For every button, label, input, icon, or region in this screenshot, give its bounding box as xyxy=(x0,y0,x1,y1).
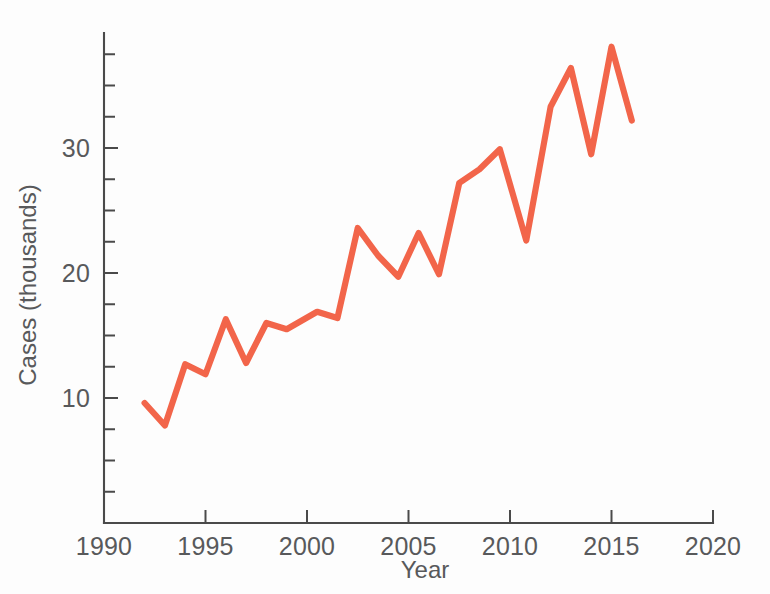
data-line-cases xyxy=(145,47,632,426)
y-axis-title: Cases (thousands) xyxy=(14,184,41,385)
x-tick-label: 1995 xyxy=(177,532,233,560)
y-axis: 102030 xyxy=(62,33,118,523)
data-series-group xyxy=(145,47,632,426)
y-tick-label: 20 xyxy=(62,259,90,287)
y-tick-label: 10 xyxy=(62,384,90,412)
x-tick-label: 2010 xyxy=(482,532,538,560)
x-tick-label: 2015 xyxy=(583,532,639,560)
x-tick-label: 1990 xyxy=(76,532,132,560)
x-tick-label: 2000 xyxy=(279,532,335,560)
line-chart-figure: 102030 1990199520002005201020152020 Year… xyxy=(0,0,770,594)
x-tick-label: 2020 xyxy=(685,532,741,560)
chart-canvas: 102030 1990199520002005201020152020 Year… xyxy=(0,0,770,594)
x-axis: 1990199520002005201020152020 xyxy=(76,510,741,560)
y-tick-label: 30 xyxy=(62,134,90,162)
x-axis-title: Year xyxy=(401,556,450,583)
